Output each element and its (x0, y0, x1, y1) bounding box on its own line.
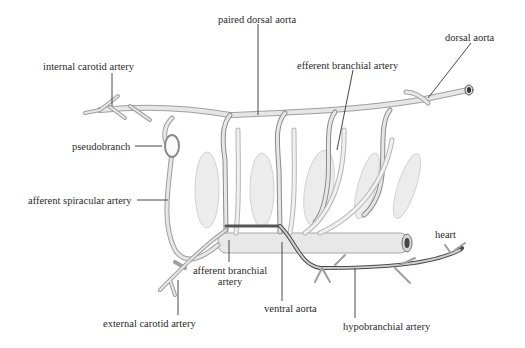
label-heart: heart (435, 229, 456, 240)
label-internal-carotid-artery: internal carotid artery (43, 61, 134, 72)
circulation-illustration (0, 0, 525, 348)
ventral-aorta-vessel (218, 233, 412, 253)
label-hypobranchial-artery: hypobranchial artery (343, 321, 430, 332)
label-ventral-aorta: ventral aorta (264, 303, 317, 314)
gill-filaments (195, 148, 426, 228)
label-afferent-spiracular-artery: afferent spiracular artery (28, 195, 132, 206)
label-pseudobranch: pseudobranch (72, 141, 130, 152)
label-dorsal-aorta: dorsal aorta (445, 32, 494, 43)
afferent-branchial-line1: afferent branchial (190, 265, 270, 276)
label-paired-dorsal-aorta: paired dorsal aorta (218, 14, 296, 25)
afferent-branchial-line2: artery (190, 276, 270, 287)
label-afferent-branchial-artery: afferent branchial artery (190, 265, 270, 287)
label-external-carotid-artery: external carotid artery (103, 318, 196, 329)
label-efferent-branchial-artery: efferent branchial artery (297, 60, 398, 71)
